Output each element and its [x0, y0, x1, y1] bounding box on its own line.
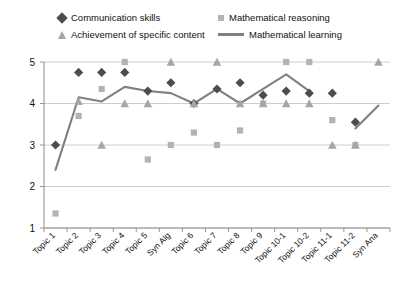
- data-point-communication-skills: [235, 78, 244, 87]
- plot-area: 12345Topic 1Topic 2Topic 3Topic 4Topic 5…: [0, 0, 401, 295]
- y-axis-tick-label: 2: [29, 181, 35, 192]
- data-point-mathematical-reasoning: [283, 59, 289, 65]
- x-axis-tick-label: Topic 8: [215, 230, 241, 256]
- data-point-communication-skills: [74, 68, 83, 77]
- x-axis-tick-label: Syn Alg: [145, 230, 173, 258]
- y-axis-tick-label: 3: [29, 140, 35, 151]
- y-axis-tick-label: 4: [29, 98, 35, 109]
- data-point-mathematical-reasoning: [99, 86, 105, 92]
- y-axis-tick-label: 1: [29, 223, 35, 234]
- plot-svg: 12345Topic 1Topic 2Topic 3Topic 4Topic 5…: [0, 0, 401, 295]
- data-point-mathematical-reasoning: [145, 156, 151, 162]
- data-point-mathematical-reasoning: [191, 129, 197, 135]
- data-point-communication-skills: [97, 68, 106, 77]
- x-axis-tick-label: Syn Ana: [350, 230, 380, 260]
- data-point-communication-skills: [282, 86, 291, 95]
- x-axis-tick-label: Topic 2: [54, 230, 80, 256]
- data-point-mathematical-reasoning: [168, 142, 174, 148]
- x-axis-tick-label: Topic 7: [192, 230, 218, 256]
- data-point-mathematical-reasoning: [214, 142, 220, 148]
- data-point-mathematical-reasoning: [237, 127, 243, 133]
- data-point-communication-skills: [166, 78, 175, 87]
- x-axis-tick-label: Topic 4: [100, 230, 126, 256]
- data-point-mathematical-reasoning: [52, 210, 58, 216]
- data-point-mathematical-reasoning: [76, 113, 82, 119]
- x-axis-tick-label: Topic 6: [169, 230, 195, 256]
- y-axis-tick-label: 5: [29, 57, 35, 68]
- data-point-mathematical-reasoning: [306, 59, 312, 65]
- series-line-mathematical-learning: [355, 106, 378, 129]
- x-axis-tick-label: Topic 1: [31, 230, 57, 256]
- data-point-communication-skills: [51, 140, 60, 149]
- data-point-communication-skills: [120, 68, 129, 77]
- data-point-communication-skills: [143, 86, 152, 95]
- data-point-mathematical-reasoning: [329, 117, 335, 123]
- x-axis-tick-label: Topic 3: [77, 230, 103, 256]
- chart-container: Communication skills Mathematical reason…: [0, 0, 401, 295]
- data-point-mathematical-reasoning: [122, 59, 128, 65]
- series-line-mathematical-learning: [56, 74, 310, 169]
- data-point-communication-skills: [328, 89, 337, 98]
